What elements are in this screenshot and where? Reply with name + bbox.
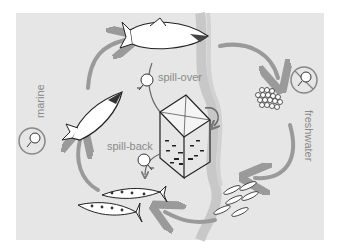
spill-back-label: spill-back bbox=[107, 140, 153, 152]
ocean-salmon-icon bbox=[62, 92, 122, 140]
arrow-smolts-to-ocean bbox=[78, 140, 98, 190]
arrow-eggs-to-alevins bbox=[255, 125, 293, 178]
smolt-fish-icon bbox=[78, 186, 167, 222]
fish-farm-net-pen-icon bbox=[160, 95, 210, 178]
spill-over-label: spill-over bbox=[158, 71, 202, 83]
pathogen-prohibited bbox=[291, 67, 317, 93]
marine-label: marine bbox=[34, 84, 46, 118]
lifecycle-diagram bbox=[0, 0, 338, 248]
pathogen-in-circle bbox=[19, 128, 45, 154]
arrow-ocean-to-adult bbox=[88, 40, 125, 88]
freshwater-label: freshwater bbox=[303, 110, 315, 161]
pathogen-icon bbox=[137, 74, 153, 90]
adult-salmon-icon bbox=[120, 18, 208, 49]
eggs-icon bbox=[256, 88, 283, 110]
arrow-adult-to-eggs bbox=[220, 45, 278, 78]
